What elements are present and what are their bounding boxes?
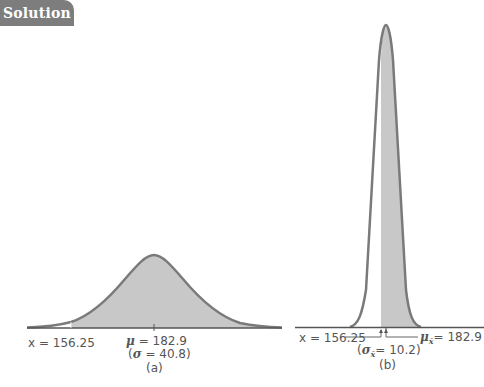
chart-b-mu-label: μx̄= 182.9 <box>420 330 482 346</box>
chart-b <box>295 25 484 337</box>
sigma-symbol: σ <box>133 347 142 361</box>
chart-a-x-label: x = 156.25 <box>28 336 95 350</box>
distribution-charts <box>0 0 484 387</box>
sigma-xbar-symbol: σx̄ <box>362 343 376 357</box>
mu-xbar-symbol: μx̄ <box>420 330 434 344</box>
chart-b-caption: (b) <box>379 358 396 372</box>
chart-b-x-label: x = 156.25 <box>299 331 366 345</box>
cut-off-caption-text: · · · · · · · · <box>30 381 200 387</box>
mu-symbol: μ <box>126 334 135 348</box>
chart-a-sigma-label: (σ = 40.8) <box>128 347 191 361</box>
chart-b-arrow-right <box>384 329 388 333</box>
chart-a-shaded-area <box>71 255 282 328</box>
chart-b-sigma-label: (σx̄= 10.2) <box>357 343 421 359</box>
chart-a <box>27 255 282 331</box>
chart-b-arrow-left <box>379 329 383 333</box>
chart-b-shaded-area <box>381 25 421 327</box>
chart-a-mu-label: μ = 182.9 <box>126 334 187 348</box>
chart-b-mu-leader <box>386 330 418 337</box>
chart-a-caption: (a) <box>146 361 163 375</box>
